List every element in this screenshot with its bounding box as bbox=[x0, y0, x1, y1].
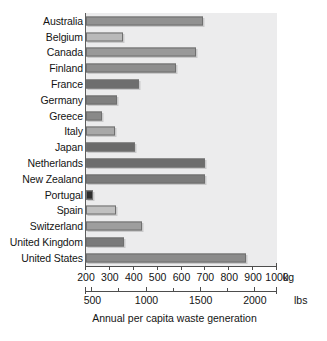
chart-caption-text: Annual per capita waste generation bbox=[70, 312, 257, 325]
chart-caption: Annual per capita waste generation bbox=[0, 312, 327, 325]
bar bbox=[86, 64, 176, 73]
bar-row: Japan bbox=[0, 139, 327, 155]
kg-tick-label: 400 bbox=[125, 271, 143, 283]
bar bbox=[86, 32, 123, 41]
kg-axis-line bbox=[85, 266, 277, 267]
lbs-axis-minor-tick bbox=[173, 288, 174, 291]
bar-row: Germany bbox=[0, 92, 327, 108]
bar-row: Portugal bbox=[0, 187, 327, 203]
lbs-unit-label: lbs bbox=[294, 294, 307, 306]
category-label: Australia bbox=[43, 15, 83, 26]
kg-tick-labels: 2003004005006007008009001000 bbox=[0, 271, 327, 284]
lbs-tick-label: 1500 bbox=[189, 294, 212, 306]
bar-row: United States bbox=[0, 250, 327, 266]
bar bbox=[86, 174, 205, 183]
kg-axis-tick bbox=[204, 266, 205, 270]
bar-row: Australia bbox=[0, 13, 327, 29]
kg-axis-tick bbox=[252, 266, 253, 270]
lbs-axis-endcap bbox=[85, 287, 86, 294]
kg-tick-label: 600 bbox=[173, 271, 191, 283]
bar bbox=[86, 95, 117, 104]
bar bbox=[86, 206, 116, 215]
kg-axis-tick bbox=[133, 266, 134, 270]
bar-row: Canada bbox=[0, 45, 327, 61]
bar bbox=[86, 253, 246, 262]
lbs-tick-label: 2000 bbox=[243, 294, 266, 306]
waste-generation-bar-chart: AustraliaBelgiumCanadaFinlandFranceGerma… bbox=[0, 0, 327, 341]
category-label: Finland bbox=[49, 63, 83, 74]
lbs-axis-minor-tick bbox=[118, 288, 119, 291]
kg-axis-tick bbox=[109, 266, 110, 270]
bar bbox=[86, 190, 93, 199]
kg-tick-label: 500 bbox=[149, 271, 167, 283]
bar bbox=[86, 143, 135, 152]
bar-row: Italy bbox=[0, 124, 327, 140]
bar bbox=[86, 48, 196, 57]
category-label: Spain bbox=[57, 205, 83, 216]
lbs-axis-tick bbox=[146, 287, 147, 291]
bar bbox=[86, 16, 203, 25]
bar bbox=[86, 222, 142, 231]
category-label: United Kingdom bbox=[10, 237, 83, 248]
lbs-tick-label: 500 bbox=[84, 294, 102, 306]
kg-axis-tick bbox=[276, 263, 277, 270]
kg-tick-label: 900 bbox=[244, 271, 262, 283]
lbs-axis-tick bbox=[254, 287, 255, 291]
bar-row: Switzerland bbox=[0, 218, 327, 234]
lbs-tick-label: 1000 bbox=[135, 294, 158, 306]
bar-rows: AustraliaBelgiumCanadaFinlandFranceGerma… bbox=[0, 13, 327, 266]
bar-row: Greece bbox=[0, 108, 327, 124]
bar-row: France bbox=[0, 76, 327, 92]
category-label: Switzerland bbox=[30, 221, 83, 232]
lbs-axis-minor-tick bbox=[227, 288, 228, 291]
category-label: Greece bbox=[49, 110, 83, 121]
bar bbox=[86, 80, 139, 89]
category-label: France bbox=[51, 79, 83, 90]
category-label: New Zealand bbox=[22, 173, 83, 184]
kg-tick-label: 200 bbox=[77, 271, 95, 283]
kg-tick-label: 700 bbox=[197, 271, 215, 283]
category-label: Belgium bbox=[46, 31, 83, 42]
kg-axis-tick bbox=[85, 263, 86, 270]
bar-row: Spain bbox=[0, 203, 327, 219]
bar bbox=[86, 127, 115, 136]
lbs-tick-labels: 500100015002000 bbox=[0, 294, 327, 307]
lbs-axis-tick bbox=[200, 287, 201, 291]
bar bbox=[86, 159, 205, 168]
lbs-axis-line bbox=[85, 291, 277, 292]
bar bbox=[86, 111, 102, 120]
kg-unit-label: kg bbox=[283, 271, 294, 283]
category-label: Japan bbox=[55, 142, 83, 153]
bar-row: Netherlands bbox=[0, 155, 327, 171]
category-label: Germany bbox=[41, 94, 83, 105]
kg-axis-tick bbox=[228, 266, 229, 270]
lbs-axis-tick bbox=[91, 287, 92, 291]
kg-axis-tick bbox=[181, 266, 182, 270]
kg-axis-tick bbox=[157, 266, 158, 270]
category-label: Italy bbox=[64, 126, 83, 137]
bar bbox=[86, 238, 124, 247]
category-label: Canada bbox=[47, 47, 83, 58]
bar-row: New Zealand bbox=[0, 171, 327, 187]
bar-row: Belgium bbox=[0, 29, 327, 45]
lbs-axis-endcap bbox=[276, 287, 277, 294]
bar-row: United Kingdom bbox=[0, 234, 327, 250]
bar-row: Finland bbox=[0, 60, 327, 76]
category-label: United States bbox=[21, 252, 83, 263]
category-label: Netherlands bbox=[27, 158, 83, 169]
category-label: Portugal bbox=[45, 189, 83, 200]
kg-tick-label: 300 bbox=[101, 271, 119, 283]
kg-tick-label: 800 bbox=[220, 271, 238, 283]
